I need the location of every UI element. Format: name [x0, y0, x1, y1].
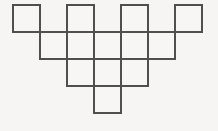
grid-square [67, 32, 94, 59]
grid-square [148, 32, 175, 59]
grid-square [67, 5, 94, 32]
square-pyramid-figure [0, 0, 218, 131]
grid-square [40, 32, 67, 59]
grid-square [67, 59, 94, 86]
figure-canvas [0, 0, 218, 131]
grid-square [13, 5, 40, 32]
grid-square [94, 86, 121, 113]
grid-square [121, 59, 148, 86]
grid-square [94, 59, 121, 86]
grid-square [121, 32, 148, 59]
squares-group [13, 5, 202, 113]
grid-square [121, 5, 148, 32]
grid-square [175, 5, 202, 32]
grid-square [94, 32, 121, 59]
